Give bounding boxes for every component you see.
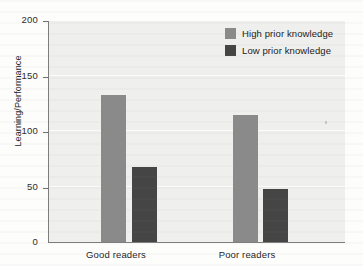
legend-item-high-prior-knowledge[interactable]: High prior knowledge: [225, 27, 333, 39]
y-tick-label-0: 0: [33, 236, 38, 247]
gridline-100: [49, 130, 345, 131]
y-tick-mark-200: [43, 21, 48, 22]
bar-poor-readers-low-prior-knowledge[interactable]: [263, 189, 288, 242]
bar-chart-figure: 200 150 100 50 0 Learning/Performance Go…: [0, 0, 363, 266]
x-axis-label-good-readers: Good readers: [68, 249, 164, 260]
y-tick-label-200: 200: [22, 14, 38, 25]
legend-swatch-icon-high: [225, 28, 236, 39]
bar-good-readers-low-prior-knowledge[interactable]: [132, 167, 157, 242]
y-tick-mark-50: [43, 188, 48, 189]
legend-label-low: Low prior knowledge: [242, 45, 331, 56]
y-tick-mark-100: [43, 132, 48, 133]
bar-poor-readers-high-prior-knowledge[interactable]: [233, 115, 258, 242]
y-tick-label-150: 150: [22, 70, 38, 81]
legend-item-low-prior-knowledge[interactable]: Low prior knowledge: [225, 44, 333, 56]
legend: High prior knowledge Low prior knowledge: [225, 27, 333, 61]
y-axis-label: Learning/Performance: [13, 36, 23, 166]
gridline-50: [49, 186, 345, 187]
scan-artifact-speck: [325, 121, 327, 124]
bar-good-readers-high-prior-knowledge[interactable]: [101, 95, 126, 242]
y-tick-label-50: 50: [27, 181, 38, 192]
legend-label-high: High prior knowledge: [242, 28, 333, 39]
y-tick-label-100: 100: [22, 125, 38, 136]
gridline-150: [49, 75, 345, 76]
x-axis-label-poor-readers: Poor readers: [199, 249, 295, 260]
y-tick-mark-150: [43, 77, 48, 78]
legend-swatch-icon-low: [225, 45, 236, 56]
